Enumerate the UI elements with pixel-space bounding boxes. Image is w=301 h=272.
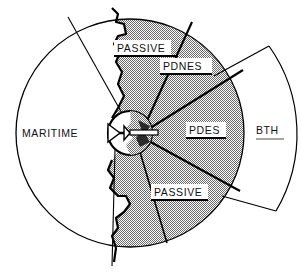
label-maritime-group: MARITIME [22,127,78,139]
coverage-diagram-container: MARITIME PASSIVE PDNES PDES BTH PA [0,0,301,272]
aircraft-beam-band [130,130,158,135]
label-passive-bottom-group: PASSIVE [151,184,208,200]
label-pdes-group: PDES [186,122,226,138]
label-pdes: PDES [189,124,220,136]
label-passive-bottom: PASSIVE [154,186,202,198]
label-maritime: MARITIME [22,127,78,139]
label-passive-top-group: PASSIVE [114,40,178,56]
label-passive-top: PASSIVE [117,42,165,54]
label-pdnes: PDNES [163,60,202,72]
label-bth: BTH [256,124,279,136]
coverage-diagram: MARITIME PASSIVE PDNES PDES BTH PA [0,0,301,272]
label-pdnes-group: PDNES [160,58,212,74]
